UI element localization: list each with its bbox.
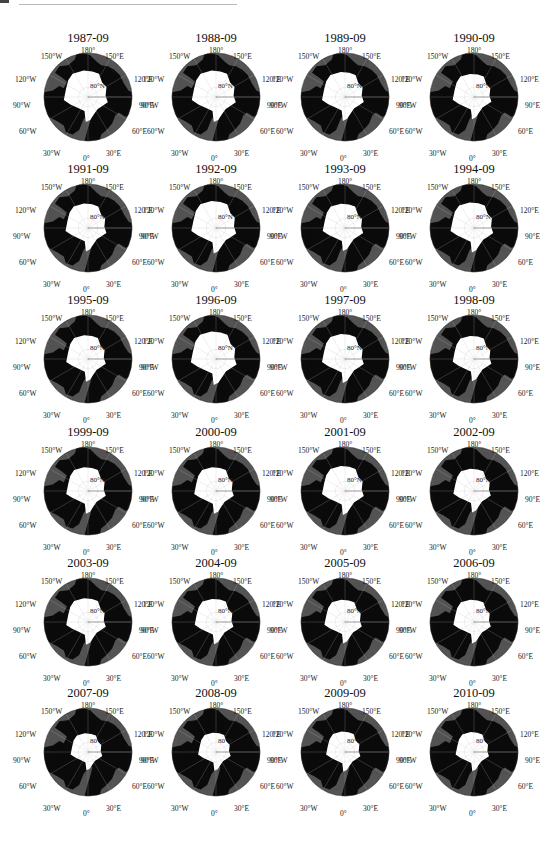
svg-text:80°N: 80°N: [218, 82, 233, 90]
label-150w: 150°W: [427, 315, 448, 323]
label-150w: 150°W: [427, 184, 448, 192]
label-90w: 90°W: [270, 496, 288, 504]
label-120w: 120°W: [143, 470, 164, 478]
label-30e: 30°E: [363, 150, 378, 158]
label-60w: 60°W: [405, 390, 423, 398]
label-150w: 150°W: [427, 578, 448, 586]
label-30w: 30°W: [171, 150, 189, 158]
label-90w: 90°W: [399, 627, 417, 635]
label-150e: 150°E: [491, 578, 510, 586]
label-180: 180°: [338, 309, 352, 317]
label-60w: 60°W: [276, 653, 294, 661]
label-60w: 60°W: [276, 128, 294, 136]
label-30w: 30°W: [429, 675, 447, 683]
label-150w: 150°W: [298, 578, 319, 586]
label-90w: 90°W: [141, 757, 159, 765]
label-120w: 120°W: [272, 601, 293, 609]
label-150w: 150°W: [169, 708, 190, 716]
polar-map-panel-2002-09: 2002-09 80°N 180° 150°W 150°E 120°W 120°…: [399, 425, 549, 555]
label-60w: 60°W: [19, 783, 37, 791]
label-0: 0°: [340, 417, 347, 425]
label-30e: 30°E: [234, 281, 249, 289]
label-120w: 120°W: [143, 601, 164, 609]
svg-text:80°N: 80°N: [347, 213, 362, 221]
label-150w: 150°W: [298, 447, 319, 455]
label-30e: 30°E: [363, 544, 378, 552]
label-30e: 30°E: [492, 281, 507, 289]
label-30w: 30°W: [43, 412, 61, 420]
label-60w: 60°W: [405, 128, 423, 136]
label-60w: 60°W: [276, 522, 294, 530]
label-120w: 120°W: [401, 731, 422, 739]
label-90w: 90°W: [141, 233, 159, 241]
polar-map-panel-2006-09: 2006-09 80°N 180° 150°W 150°E 120°W 120°…: [399, 556, 549, 686]
svg-text:80°N: 80°N: [476, 213, 491, 221]
polar-map-panel-1989-09: 1989-09 80°N 180° 150°W 150°E 120°W 120°…: [270, 31, 420, 161]
polar-map-panel-1997-09: 1997-09 80°N 180° 150°W 150°E 120°W 120°…: [270, 293, 420, 423]
label-150e: 150°E: [233, 184, 252, 192]
label-30e: 30°E: [492, 412, 507, 420]
label-150e: 150°E: [105, 578, 124, 586]
label-120w: 120°W: [143, 207, 164, 215]
label-60w: 60°W: [405, 522, 423, 530]
label-90w: 90°W: [13, 757, 31, 765]
label-120w: 120°W: [401, 207, 422, 215]
polar-map-panel-1996-09: 1996-09 80°N 180° 150°W 150°E 120°W 120°…: [141, 293, 291, 423]
polar-map-panel-1998-09: 1998-09 80°N 180° 150°W 150°E 120°W 120°…: [399, 293, 549, 423]
label-30e: 30°E: [234, 544, 249, 552]
polar-map-panel-1993-09: 1993-09 80°N 180° 150°W 150°E 120°W 120°…: [270, 162, 420, 292]
label-60w: 60°W: [19, 653, 37, 661]
label-30w: 30°W: [300, 544, 318, 552]
label-150e: 150°E: [105, 315, 124, 323]
label-180: 180°: [338, 47, 352, 55]
label-150e: 150°E: [491, 53, 510, 61]
svg-text:80°N: 80°N: [476, 476, 491, 484]
label-180: 180°: [467, 47, 481, 55]
svg-text:80°N: 80°N: [218, 476, 233, 484]
label-30e: 30°E: [106, 150, 121, 158]
polar-map-panel-1988-09: 1988-09 80°N 180° 150°W 150°E 120°W 120°…: [141, 31, 291, 161]
label-30e: 30°E: [106, 544, 121, 552]
label-30w: 30°W: [300, 412, 318, 420]
label-180: 180°: [467, 309, 481, 317]
label-30e: 30°E: [106, 412, 121, 420]
label-30w: 30°W: [171, 805, 189, 813]
label-120w: 120°W: [272, 76, 293, 84]
polar-map-panel-2004-09: 2004-09 80°N 180° 150°W 150°E 120°W 120°…: [141, 556, 291, 686]
svg-text:80°N: 80°N: [476, 82, 491, 90]
label-60e: 60°E: [518, 653, 533, 661]
label-90e: 90°E: [525, 364, 540, 372]
label-30e: 30°E: [363, 281, 378, 289]
label-30e: 30°E: [363, 805, 378, 813]
label-150w: 150°W: [427, 53, 448, 61]
label-60w: 60°W: [147, 259, 165, 267]
label-150w: 150°W: [41, 708, 62, 716]
label-120e: 120°E: [520, 76, 539, 84]
label-150w: 150°W: [298, 53, 319, 61]
label-90w: 90°W: [399, 496, 417, 504]
label-180: 180°: [338, 178, 352, 186]
label-90w: 90°W: [141, 102, 159, 110]
label-30w: 30°W: [300, 805, 318, 813]
label-150w: 150°W: [169, 578, 190, 586]
label-150e: 150°E: [105, 708, 124, 716]
label-150w: 150°W: [169, 447, 190, 455]
label-60w: 60°W: [147, 522, 165, 530]
label-30e: 30°E: [234, 412, 249, 420]
label-90w: 90°W: [13, 627, 31, 635]
label-0: 0°: [340, 810, 347, 818]
label-30w: 30°W: [43, 281, 61, 289]
label-180: 180°: [338, 441, 352, 449]
label-120e: 120°E: [520, 470, 539, 478]
label-180: 180°: [467, 178, 481, 186]
svg-text:80°N: 80°N: [90, 344, 105, 352]
label-180: 180°: [209, 441, 223, 449]
label-30e: 30°E: [106, 281, 121, 289]
svg-text:80°N: 80°N: [90, 213, 105, 221]
label-120e: 120°E: [520, 338, 539, 346]
label-0: 0°: [211, 810, 218, 818]
label-90e: 90°E: [525, 757, 540, 765]
label-90e: 90°E: [525, 233, 540, 241]
svg-text:80°N: 80°N: [347, 344, 362, 352]
polar-map-panel-2001-09: 2001-09 80°N 180° 150°W 150°E 120°W 120°…: [270, 425, 420, 555]
